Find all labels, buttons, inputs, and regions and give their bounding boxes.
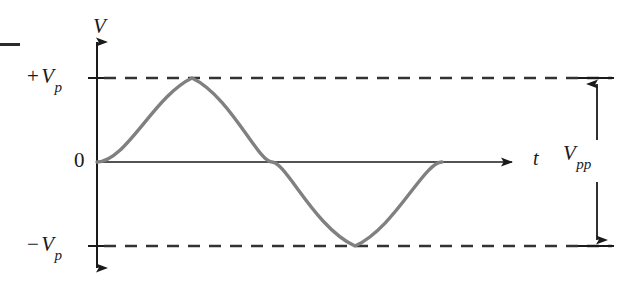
positive-peak-sign: + bbox=[27, 64, 39, 88]
negative-peak-sign: − bbox=[27, 232, 39, 256]
negative-peak-subscript: p bbox=[54, 247, 62, 263]
negative-peak-label: −Vp bbox=[27, 234, 62, 259]
negative-peak-symbol: V bbox=[41, 232, 54, 256]
peak-to-peak-label: Vpp bbox=[563, 143, 591, 168]
positive-peak-label: +Vp bbox=[27, 66, 62, 91]
peak-to-peak-symbol: V bbox=[563, 141, 576, 165]
waveform-figure: V +Vp 0 −Vp t Vpp bbox=[0, 0, 626, 294]
peak-to-peak-subscript: pp bbox=[576, 156, 591, 172]
positive-peak-symbol: V bbox=[41, 64, 54, 88]
v-axis-label: V bbox=[93, 16, 106, 37]
origin-label: 0 bbox=[74, 150, 85, 171]
t-axis-label: t bbox=[533, 148, 539, 168]
positive-peak-subscript: p bbox=[54, 79, 62, 95]
